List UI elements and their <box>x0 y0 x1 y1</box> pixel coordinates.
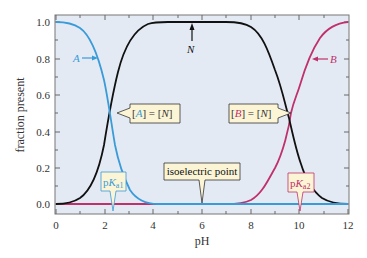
y-tick-0.6: 0.6 <box>36 89 50 101</box>
x-tick-12: 12 <box>343 219 354 231</box>
svg-text:[B] = [N]: [B] = [N] <box>231 107 271 119</box>
x-tick-4: 4 <box>150 219 156 231</box>
y-axis-title: fraction present <box>13 77 27 153</box>
y-tick-0.8: 0.8 <box>36 53 50 65</box>
y-tick-0.2: 0.2 <box>36 162 50 174</box>
chart: 0.0 0.2 0.4 0.6 0.8 1.0 0 2 4 6 8 10 12 … <box>0 0 367 258</box>
y-tick-1.0: 1.0 <box>36 16 50 28</box>
x-tick-2: 2 <box>102 219 108 231</box>
x-axis-title: pH <box>195 234 210 248</box>
series-A-label: A <box>72 52 80 64</box>
y-tick-0: 0.0 <box>36 198 50 210</box>
svg-text:isoelectric point: isoelectric point <box>167 165 238 177</box>
x-tick-6: 6 <box>199 219 205 231</box>
x-tick-0: 0 <box>53 219 59 231</box>
y-tick-labels: 0.0 0.2 0.4 0.6 0.8 1.0 <box>36 16 50 210</box>
series-N-label: N <box>186 43 195 55</box>
x-tick-8: 8 <box>248 219 254 231</box>
svg-text:[A] = [N]: [A] = [N] <box>132 107 172 119</box>
x-tick-labels: 0 2 4 6 8 10 12 <box>53 219 353 231</box>
x-tick-10: 10 <box>294 219 306 231</box>
y-tick-0.4: 0.4 <box>36 126 50 138</box>
series-B-label: B <box>330 53 337 65</box>
